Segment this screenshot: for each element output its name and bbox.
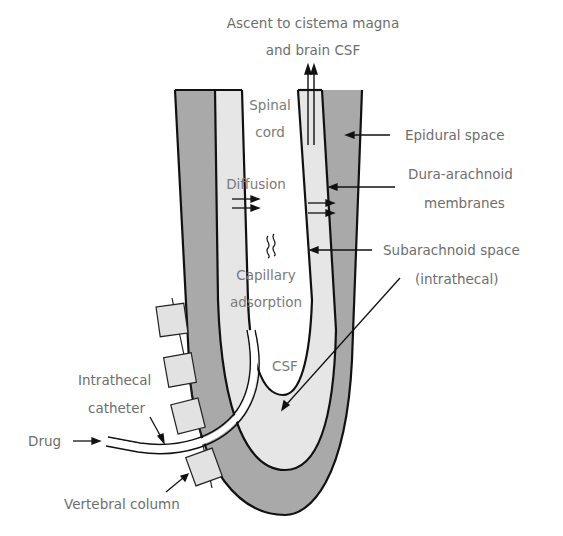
spinal-drug-delivery-diagram: Ascent to cistema magna and brain CSF Sp… (0, 0, 563, 536)
left-pointers (73, 417, 188, 492)
capillary-label-1: Capillary (236, 267, 295, 283)
catheter-label-2: catheter (88, 400, 145, 416)
subarachnoid-label-2: (intrathecal) (415, 271, 499, 287)
dura-label-1: Dura-arachnoid (408, 166, 513, 182)
diagram-canvas: Ascent to cistema magna and brain CSF Sp… (0, 0, 563, 536)
spinal-label-1: Spinal (249, 97, 290, 113)
drug-label: Drug (28, 433, 61, 449)
vertebral-label: Vertebral column (64, 496, 180, 512)
subarachnoid-label-1: Subarachnoid space (383, 242, 520, 258)
spinal-label-2: cord (255, 124, 285, 140)
capillary-squiggle-icon (267, 234, 275, 258)
title-line-1: Ascent to cistema magna (227, 15, 399, 31)
epidural-label: Epidural space (405, 127, 504, 143)
catheter-label-1: Intrathecal (78, 372, 151, 388)
dura-label-2: membranes (424, 195, 505, 211)
diffusion-label: Diffusion (226, 176, 286, 192)
title-line-2: and brain CSF (266, 42, 360, 58)
csf-label: CSF (272, 358, 298, 374)
capillary-label-2: adsorption (230, 294, 302, 310)
